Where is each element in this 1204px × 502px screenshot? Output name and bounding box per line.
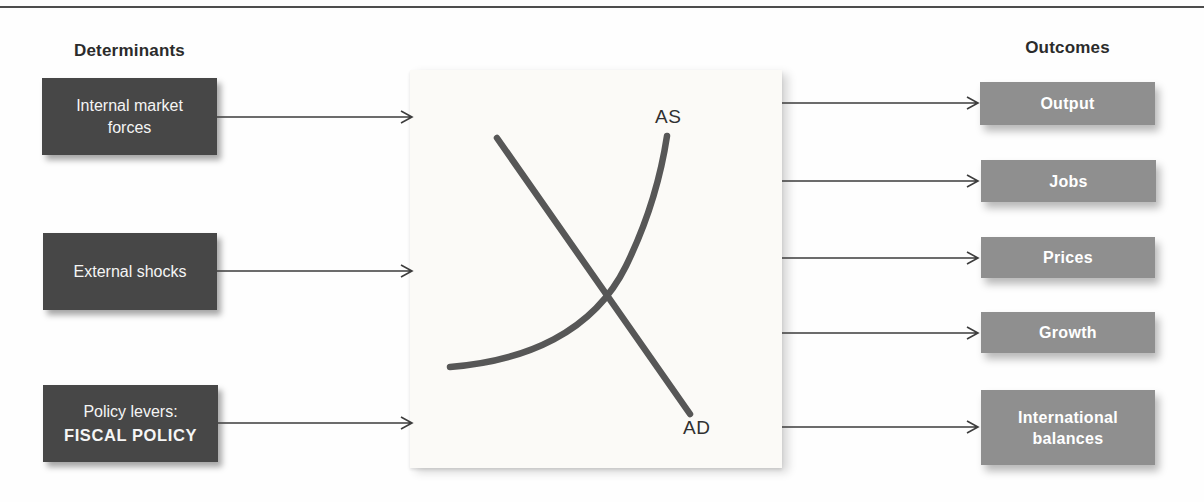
- outcome-label: Prices: [1043, 247, 1093, 268]
- outcome-box-international-balances: International balances: [981, 390, 1155, 465]
- determinant-label: Policy levers:: [83, 401, 177, 423]
- arrow-model-to-prices: [782, 252, 978, 264]
- determinant-label: Internal market forces: [76, 95, 183, 139]
- determinant-box-internal-market-forces: Internal market forces: [42, 78, 217, 155]
- arrow-model-to-jobs: [782, 175, 978, 187]
- determinant-label-fiscal-policy: FISCAL POLICY: [64, 424, 197, 446]
- arrow-external-shocks-to-model: [217, 265, 412, 277]
- outcome-label: Jobs: [1049, 171, 1088, 192]
- outcome-box-output: Output: [980, 82, 1155, 125]
- figure-canvas: Determinants Outcomes Internal market fo…: [0, 0, 1204, 502]
- outcome-label: Output: [1040, 93, 1094, 114]
- outcomes-heading: Outcomes: [980, 38, 1155, 58]
- outcome-box-jobs: Jobs: [981, 160, 1156, 202]
- outcome-box-prices: Prices: [981, 237, 1155, 278]
- arrow-policy-levers-to-model: [218, 417, 412, 429]
- arrow-model-to-growth: [782, 327, 978, 339]
- ad-curve-label: AD: [683, 417, 710, 439]
- determinant-box-policy-levers: Policy levers: FISCAL POLICY: [43, 385, 218, 462]
- as-ad-model-panel: [410, 70, 782, 468]
- determinant-label: External shocks: [74, 261, 187, 283]
- outcome-box-growth: Growth: [981, 312, 1155, 353]
- determinants-heading: Determinants: [42, 41, 217, 61]
- outcome-label: International balances: [1018, 407, 1118, 449]
- arrow-model-to-output: [782, 97, 978, 109]
- arrow-internal-forces-to-model: [217, 111, 412, 123]
- determinant-box-external-shocks: External shocks: [43, 233, 217, 310]
- outcome-label: Growth: [1039, 322, 1097, 343]
- arrow-model-to-international-balances: [782, 421, 978, 433]
- as-curve-label: AS: [655, 106, 681, 128]
- figure-top-rule: [0, 6, 1204, 8]
